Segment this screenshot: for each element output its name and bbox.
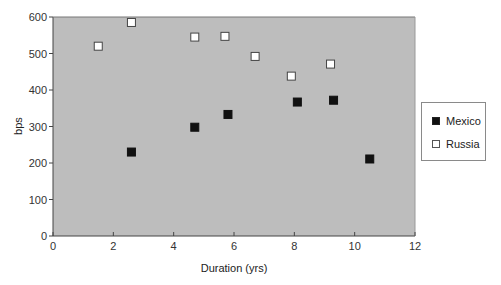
y-axis-title: bps <box>12 117 24 135</box>
legend-label: Mexico <box>446 115 481 127</box>
data-point-russia <box>221 32 229 40</box>
legend: Mexico Russia <box>421 102 486 161</box>
y-tick-label: 0 <box>41 230 47 242</box>
y-tick-label: 600 <box>29 11 47 23</box>
data-point-russia <box>287 72 295 80</box>
hollow-square-icon <box>432 140 440 148</box>
data-point-russia <box>191 33 199 41</box>
filled-square-icon <box>432 117 440 125</box>
x-tick-label: 0 <box>50 240 56 252</box>
y-tick-label: 300 <box>29 121 47 133</box>
legend-label: Russia <box>446 138 480 150</box>
data-point-mexico <box>366 155 374 163</box>
y-tick-label: 500 <box>29 48 47 60</box>
data-point-mexico <box>330 96 338 104</box>
data-point-russia <box>327 60 335 68</box>
x-tick-label: 4 <box>171 240 177 252</box>
data-point-russia <box>251 52 259 60</box>
data-point-mexico <box>191 123 199 131</box>
y-tick-label: 100 <box>29 194 47 206</box>
y-tick-label: 400 <box>29 84 47 96</box>
y-tick-label: 200 <box>29 157 47 169</box>
plot-area <box>53 17 415 236</box>
data-point-mexico <box>127 148 135 156</box>
legend-item-russia: Russia <box>432 138 480 150</box>
x-axis-title: Duration (yrs) <box>201 262 268 274</box>
legend-item-mexico: Mexico <box>432 115 481 127</box>
x-tick-label: 6 <box>231 240 237 252</box>
data-point-russia <box>94 42 102 50</box>
data-point-russia <box>127 18 135 26</box>
data-point-mexico <box>224 110 232 118</box>
data-point-mexico <box>293 98 301 106</box>
x-tick-label: 12 <box>409 240 421 252</box>
x-tick-label: 2 <box>110 240 116 252</box>
x-tick-label: 10 <box>349 240 361 252</box>
x-tick-label: 8 <box>291 240 297 252</box>
